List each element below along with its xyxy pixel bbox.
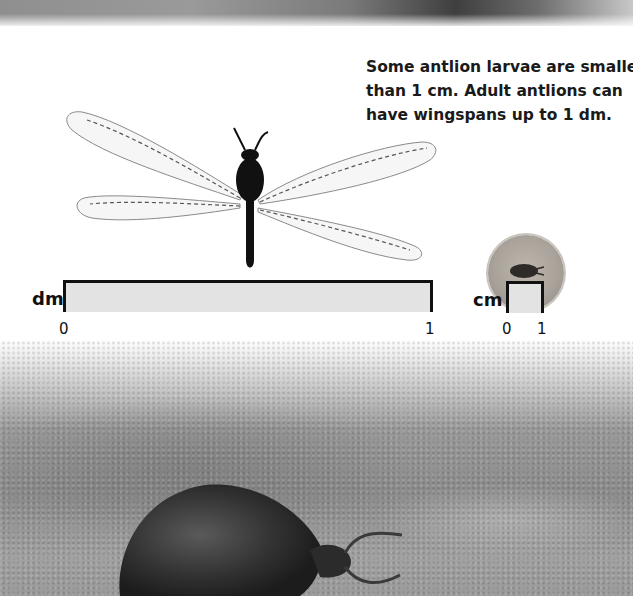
dm-ruler <box>63 280 433 312</box>
dm-tick-0: 0 <box>59 320 69 338</box>
dm-tick-1: 1 <box>425 320 435 338</box>
antlion-larva-image <box>110 475 410 596</box>
cm-unit-label: cm <box>473 289 502 310</box>
top-photo-fade <box>0 14 633 28</box>
cm-tick-1: 1 <box>537 320 547 338</box>
cm-tick-0: 0 <box>502 320 512 338</box>
cm-ruler <box>506 281 544 313</box>
caption-line: Some antlion larvae are smaller <box>366 55 626 79</box>
adult-antlion-image <box>62 100 452 275</box>
dm-unit-label: dm <box>32 288 64 309</box>
